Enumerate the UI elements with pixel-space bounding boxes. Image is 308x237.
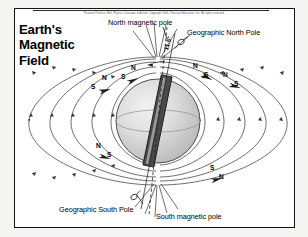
magnetic-field-diagram — [15, 9, 295, 228]
label-geographic-south-pole: Geographic South Pole — [59, 205, 133, 214]
compass-upper-left: N S — [119, 65, 139, 79]
label-north-magnetic-pole: North magnetic pole — [108, 18, 172, 27]
compass-upper-mid-left: N S — [91, 75, 111, 89]
compass-lower-right-north: N — [219, 174, 224, 181]
compass-lower-right-south: S — [210, 165, 214, 172]
compass-upper-left-south: S — [121, 74, 125, 81]
screenshot-root: Pearson Prentice Hall, Physics Concepts … — [0, 0, 308, 237]
compass-mid-right-north: N — [223, 72, 228, 79]
figure-panel: Pearson Prentice Hall, Physics Concepts … — [14, 8, 295, 228]
label-geographic-north-pole: Geographic North Pole — [187, 28, 260, 37]
compass-lower-left: N S — [95, 143, 115, 157]
label-south-magnetic-pole: South magnetic pole — [156, 212, 222, 221]
compass-upper-right-north: N — [193, 63, 198, 70]
compass-upper-right: N S — [193, 63, 213, 77]
compass-lower-left-south: S — [107, 152, 111, 159]
compass-mid-right: N S — [223, 72, 243, 86]
compass-upper-right-south: S — [204, 72, 208, 79]
compass-upper-mid-left-north: N — [102, 75, 107, 82]
compass-upper-mid-left-south: S — [91, 84, 95, 91]
compass-upper-left-north: N — [131, 65, 136, 72]
compass-lower-right: S N — [209, 165, 229, 179]
geographic-south-pole-marker — [130, 191, 140, 201]
compass-mid-right-south: S — [234, 81, 238, 88]
compass-lower-left-north: N — [96, 143, 101, 150]
